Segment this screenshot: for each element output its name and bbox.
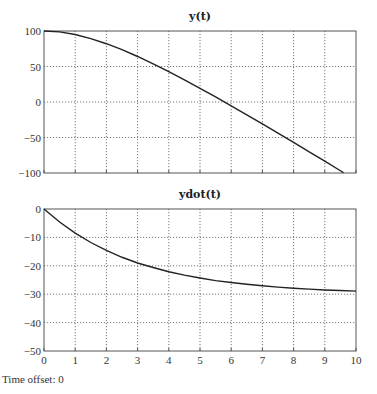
x-tick-label: 7	[260, 354, 266, 366]
x-tick-label: 3	[135, 354, 141, 366]
plot-title: y(t)	[188, 10, 211, 23]
y-tick-label: 100	[25, 25, 42, 37]
x-tick-label: 0	[41, 354, 47, 366]
x-tick-label: 1	[72, 354, 78, 366]
y-tick-label: −20	[24, 260, 42, 272]
plot-ydot: ydot(t)−50−40−30−20−100012345678910	[24, 188, 362, 366]
y-tick-label: −100	[18, 167, 41, 179]
y-tick-label: 0	[36, 203, 42, 215]
plot-title: ydot(t)	[178, 188, 221, 201]
y-tick-label: −50	[24, 345, 42, 357]
y-tick-label: 0	[36, 96, 42, 108]
y-tick-label: −10	[24, 231, 42, 243]
x-tick-label: 5	[197, 354, 203, 366]
y-tick-label: −30	[24, 288, 42, 300]
y-tick-label: −40	[24, 317, 42, 329]
x-tick-label: 10	[351, 354, 363, 366]
plots-canvas: y(t)−100−50050100 ydot(t)−50−40−30−20−10…	[0, 0, 377, 394]
series-line	[44, 31, 344, 173]
x-tick-label: 9	[322, 354, 328, 366]
x-tick-label: 4	[166, 354, 172, 366]
x-tick-label: 2	[104, 354, 110, 366]
time-offset-label: Time offset: 0	[2, 373, 64, 385]
y-tick-label: 50	[30, 61, 42, 73]
x-tick-label: 6	[228, 354, 234, 366]
x-tick-label: 8	[291, 354, 297, 366]
y-tick-label: −50	[24, 132, 42, 144]
plot-y: y(t)−100−50050100	[18, 10, 356, 179]
